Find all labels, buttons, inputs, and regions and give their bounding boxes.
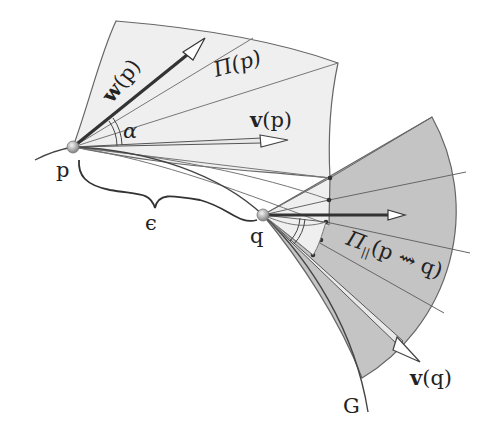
point-q	[257, 209, 269, 221]
label-epsilon: ϵ	[145, 211, 157, 235]
label-v-q: v(q)	[409, 365, 452, 390]
label-v-p: v(p)	[249, 107, 292, 132]
label-p: p	[56, 158, 69, 182]
label-alpha: α	[123, 119, 137, 143]
point-p	[67, 141, 79, 153]
label-G: G	[343, 394, 360, 418]
parallel-transport-diagram: w(p) Π(p) v(p) α p ϵ q Π||(p ⇝ q) v(q) G	[0, 0, 499, 434]
label-q: q	[250, 224, 263, 248]
